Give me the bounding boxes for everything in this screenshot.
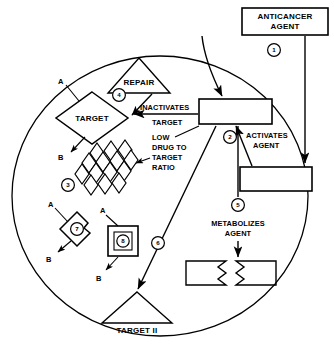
anticancer-agent-label-line2: AGENT xyxy=(271,22,300,31)
mechanisms-diagram: ANTICANCER AGENT 1 2 ACTIVATES AGENT REP… xyxy=(0,0,334,359)
diagram-root: ANTICANCER AGENT 1 2 ACTIVATES AGENT REP… xyxy=(0,0,334,359)
anticancer-agent-label-line1: ANTICANCER xyxy=(258,12,313,21)
step-badge-1-label: 1 xyxy=(272,46,276,53)
inactivates-target-label-line2: TARGET xyxy=(152,118,183,127)
step-badge-4-label: 4 xyxy=(117,91,121,98)
step-badge-7-label: 7 xyxy=(75,225,79,232)
repair-label: REPAIR xyxy=(124,78,155,87)
shape8-a-label: A xyxy=(100,206,106,215)
metabolizes-agent-line2: AGENT xyxy=(225,229,252,238)
step-badge-5-label: 5 xyxy=(236,201,240,208)
step-badge-8-label: 8 xyxy=(121,237,125,244)
shape7-b-label: B xyxy=(46,255,52,264)
low-drug-ratio-line4: RATIO xyxy=(152,163,175,172)
metabolizes-agent-line1: METABOLIZES xyxy=(211,219,265,228)
target-b-label: B xyxy=(58,153,64,162)
step-badge-3-label: 3 xyxy=(66,181,70,188)
step-badge-6-label: 6 xyxy=(156,239,160,246)
activator-box[interactable] xyxy=(240,167,312,191)
activates-agent-label-line1: ACTIVATES xyxy=(246,131,288,140)
shape7-a-label: A xyxy=(48,200,54,209)
shape8-b-label: B xyxy=(96,274,102,283)
activates-agent-label-line2: AGENT xyxy=(253,141,280,150)
low-drug-ratio-line1: LOW xyxy=(152,133,170,142)
active-drug-box[interactable] xyxy=(199,99,272,124)
inactivates-target-label-line1: INACTIVATES xyxy=(140,103,189,112)
target-label: TARGET xyxy=(75,114,109,123)
cell-boundary xyxy=(12,56,308,336)
target-two-label: TARGET II xyxy=(117,326,158,335)
low-drug-ratio-line2: DRUG TO xyxy=(152,143,187,152)
step-badge-2-label: 2 xyxy=(228,133,232,140)
low-drug-ratio-line3: TARGET xyxy=(152,153,183,162)
target-a-label: A xyxy=(58,77,64,86)
